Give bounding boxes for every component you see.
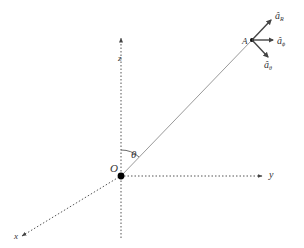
x-axis: [22, 177, 119, 236]
theta-label: θ: [131, 148, 137, 160]
spherical-coordinates-diagram: z y x θ O A âR âϕ âθ: [0, 0, 304, 248]
unit-vector-r-sub: R: [279, 16, 284, 22]
unit-vector-theta: [252, 40, 268, 57]
y-axis-label: y: [268, 169, 274, 180]
unit-vector-r: [252, 20, 271, 40]
origin-label: O: [110, 162, 118, 174]
unit-vector-phi-label: âϕ: [277, 35, 285, 47]
z-axis-label: z: [117, 53, 122, 63]
radius-line: [121, 40, 252, 176]
unit-vector-theta-sub: θ: [269, 65, 272, 71]
origin-point: [118, 173, 125, 180]
point-a-label: A: [241, 36, 248, 46]
unit-vector-theta-label: âθ: [264, 59, 272, 71]
unit-vector-r-label: âR: [275, 10, 284, 22]
x-axis-label: x: [13, 231, 18, 241]
unit-vector-phi-sub: ϕ: [282, 41, 285, 47]
